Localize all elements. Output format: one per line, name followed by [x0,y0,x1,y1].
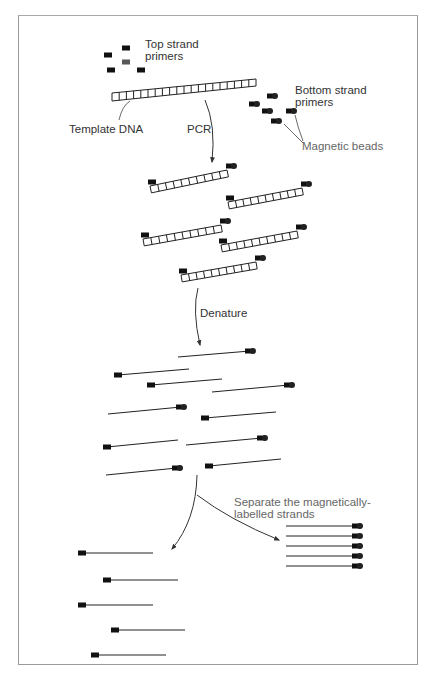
top-primers-label: Top strand primers [145,38,199,62]
unlabelled-arrow [172,475,197,549]
template-dna-label: Template DNA [69,123,143,135]
pcr-label: PCR [187,123,211,135]
top-primers-label-line1: Top strand [145,38,199,50]
separate-label-line2: labelled strands [234,508,371,520]
bottom-primers-label-line1: Bottom strand [295,84,367,96]
template-dna-rungs: /* rungs drawn below */ [112,79,256,101]
bottom-strand-primers [249,93,297,124]
separate-label: Separate the magnetically- labelled stra… [234,496,371,520]
top-primers-label-line2: primers [145,50,199,62]
pcr-products [141,163,312,282]
bottom-primers-label: Bottom strand primers [295,84,367,108]
magnetic-beads-label: Magnetic beads [302,140,383,152]
separated-strands [78,523,363,658]
bottom-primers-label-line2: primers [295,96,367,108]
denatured-strands [103,348,295,475]
top-strand-primers [104,46,145,73]
denature-label: Denature [200,307,247,319]
separate-label-line1: Separate the magnetically- [234,496,371,508]
